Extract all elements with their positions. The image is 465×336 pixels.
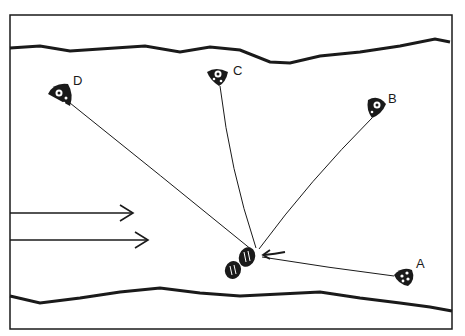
pointer-arrow-icon	[263, 250, 285, 259]
label-d: D	[73, 73, 82, 88]
label-a: A	[416, 256, 425, 271]
net-a-icon	[394, 269, 413, 286]
flow-arrow-lower	[10, 232, 148, 248]
net-b-icon	[368, 98, 387, 118]
bottom-bank-line	[10, 288, 452, 311]
tether-lines	[70, 86, 394, 276]
frame-border	[10, 15, 452, 329]
label-b: B	[388, 91, 397, 106]
flow-arrow-upper	[10, 205, 133, 221]
diagram-canvas: D C B A	[0, 0, 465, 336]
top-bank-line	[10, 39, 450, 63]
net-d-icon	[48, 84, 72, 106]
label-c: C	[233, 63, 242, 78]
net-c-icon	[207, 69, 228, 86]
